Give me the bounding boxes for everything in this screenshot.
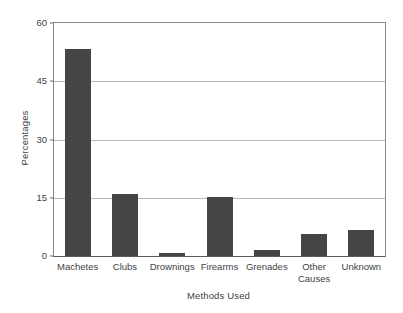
bar <box>159 253 185 256</box>
x-axis-tick-label: Unknown <box>342 261 382 273</box>
x-axis-tick-label: OtherCauses <box>298 261 330 284</box>
y-axis-tick-label: 15 <box>36 193 47 203</box>
plot-area: 015304560 MachetesClubsDrowningsFirearms… <box>53 22 386 257</box>
x-axis-tick-label: Machetes <box>57 261 98 273</box>
y-axis-tick-mark <box>50 81 54 82</box>
y-axis-tick-mark <box>50 23 54 24</box>
y-axis-tick-label: 30 <box>36 135 47 145</box>
bar <box>348 230 374 256</box>
bar <box>301 234 327 256</box>
y-axis-tick-label: 0 <box>42 251 47 261</box>
y-axis-tick-label: 60 <box>36 18 47 28</box>
y-axis-tick-mark <box>50 139 54 140</box>
y-axis-tick-label: 45 <box>36 77 47 87</box>
x-axis-tick-label: Firearms <box>201 261 238 273</box>
x-axis-tick-label: Grenades <box>246 261 288 273</box>
bar <box>65 49 91 256</box>
x-axis-title: Methods Used <box>53 290 384 301</box>
bar <box>207 197 233 256</box>
gridline <box>54 140 385 141</box>
x-axis-tick-label: Drownings <box>150 261 195 273</box>
bar <box>254 250 280 256</box>
bar <box>112 194 138 256</box>
y-axis-title: Percentages <box>17 22 33 255</box>
y-axis-tick-mark <box>50 197 54 198</box>
bar-chart-figure: Percentages 015304560 MachetesClubsDrown… <box>0 0 403 313</box>
gridline <box>54 81 385 82</box>
y-axis-tick-mark <box>50 256 54 257</box>
x-axis-tick-label: Clubs <box>113 261 137 273</box>
